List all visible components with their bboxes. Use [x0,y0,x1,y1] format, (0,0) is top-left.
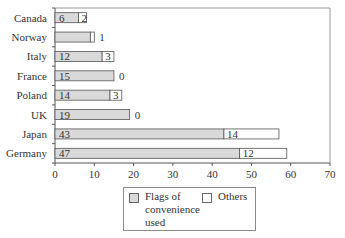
bar-label-others: 0 [135,109,141,121]
bar-flags [55,32,90,42]
bar-flags [55,129,224,139]
bar-label-others: 1 [99,31,105,43]
category-label: Canada [14,12,47,24]
legend-item-flags: Flags of convenience used [129,190,200,229]
legend-line-3: used [145,216,165,228]
category-label: Germany [6,147,47,159]
x-tick-label: 60 [285,168,297,180]
category-label: Poland [16,89,47,101]
bar-label-flags: 15 [59,70,71,82]
category-label: UK [31,109,47,121]
x-tick-label: 20 [128,168,140,180]
category-label: Japan [22,128,48,140]
bar-label-others: 3 [113,89,119,101]
bar-label-flags: 43 [59,128,71,140]
x-tick-label: 30 [167,168,179,180]
x-tick-label: 10 [89,168,101,180]
legend-line-1: Flags of [145,190,181,202]
bar-label-others: 12 [243,147,254,159]
bar-label-others: 3 [105,50,111,62]
bar-others [90,32,94,42]
x-tick-label: 40 [207,168,219,180]
bar-label-others: 0 [119,70,125,82]
category-label: Norway [12,31,48,43]
bar-label-flags: 6 [59,12,65,24]
bar-label-flags: 19 [59,109,71,121]
x-tick-label: 50 [246,168,258,180]
bar-label-flags: 14 [59,89,71,101]
category-label: Italy [27,50,48,62]
bar-label-flags: 47 [59,147,71,159]
legend-line-2: convenience [145,203,200,215]
bar-label-others: 2 [82,12,88,24]
x-tick-label: 70 [325,168,337,180]
x-tick-label: 0 [52,168,58,180]
bar-flags [55,148,240,158]
legend-label-others: Others [218,190,247,203]
legend-swatch-gray [129,193,139,203]
category-label: France [17,70,47,82]
legend-swatch-white [202,193,212,203]
legend: Flags of convenience used Others [123,187,256,231]
legend-label-flags: Flags of convenience used [145,190,200,229]
legend-item-others: Others [202,190,247,203]
bar-label-flags: 12 [59,50,70,62]
bar-label-others: 14 [227,128,239,140]
